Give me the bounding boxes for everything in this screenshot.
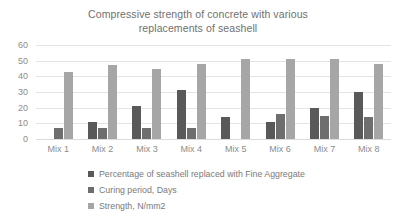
- bar[interactable]: [276, 114, 285, 139]
- bar-group: [214, 45, 258, 139]
- x-axis-tick-mix-3: Mix 3: [125, 141, 169, 157]
- bar-group: [302, 45, 346, 139]
- bar-group: [125, 45, 169, 139]
- y-axis-tick-60: 60: [18, 40, 28, 50]
- legend-label: Strength, N/mm2: [99, 201, 166, 211]
- chart-title-line-1: Compressive strength of concrete with va…: [40, 7, 356, 21]
- bar[interactable]: [330, 59, 339, 139]
- bar-group: [169, 45, 213, 139]
- y-axis-tick-20: 20: [18, 103, 28, 113]
- legend-swatch-icon: [88, 171, 94, 177]
- legend-label: Curing period, Days: [99, 185, 177, 195]
- bar[interactable]: [354, 92, 363, 139]
- legend-swatch-icon: [88, 187, 94, 193]
- x-axis-tick-mix-8: Mix 8: [347, 141, 391, 157]
- legend-label: Percentage of seashell replaced with Fin…: [99, 169, 305, 179]
- x-axis: Mix 1Mix 2Mix 3Mix 4Mix 5Mix 6Mix 7Mix 8: [36, 141, 391, 157]
- bar[interactable]: [221, 117, 230, 139]
- legend-swatch-icon: [88, 203, 94, 209]
- bar-group: [80, 45, 124, 139]
- chart-title-line-2: replacements of seashell: [40, 21, 356, 35]
- x-axis-tick-mix-1: Mix 1: [36, 141, 80, 157]
- legend-item[interactable]: Strength, N/mm2: [88, 198, 368, 214]
- bar[interactable]: [108, 65, 117, 139]
- bar[interactable]: [364, 117, 373, 139]
- gridline-0: [36, 139, 391, 140]
- y-axis-tick-40: 40: [18, 71, 28, 81]
- bar[interactable]: [132, 106, 141, 139]
- x-axis-tick-mix-7: Mix 7: [302, 141, 346, 157]
- bar[interactable]: [266, 122, 275, 139]
- x-axis-tick-mix-6: Mix 6: [258, 141, 302, 157]
- x-axis-tick-mix-4: Mix 4: [169, 141, 213, 157]
- bar[interactable]: [142, 128, 151, 139]
- bar-group: [258, 45, 302, 139]
- legend-item[interactable]: Curing period, Days: [88, 182, 368, 198]
- x-axis-tick-mix-5: Mix 5: [214, 141, 258, 157]
- bar[interactable]: [286, 59, 295, 139]
- bar-groups: [36, 45, 391, 139]
- y-axis-tick-10: 10: [18, 118, 28, 128]
- bar[interactable]: [241, 59, 250, 139]
- bar[interactable]: [320, 116, 329, 140]
- chart-legend: Percentage of seashell replaced with Fin…: [88, 166, 368, 214]
- y-axis-tick-50: 50: [18, 56, 28, 66]
- bar[interactable]: [88, 122, 97, 139]
- bar[interactable]: [197, 64, 206, 139]
- y-axis-tick-30: 30: [18, 87, 28, 97]
- bar[interactable]: [54, 128, 63, 139]
- bar[interactable]: [64, 72, 73, 139]
- y-axis: 6050403020100: [0, 45, 32, 139]
- bar[interactable]: [177, 90, 186, 139]
- bar[interactable]: [98, 128, 107, 139]
- bar-chart: Compressive strength of concrete with va…: [0, 0, 396, 224]
- bar[interactable]: [152, 69, 161, 140]
- chart-title: Compressive strength of concrete with va…: [40, 7, 356, 35]
- legend-item[interactable]: Percentage of seashell replaced with Fin…: [88, 166, 368, 182]
- bar[interactable]: [310, 108, 319, 139]
- bar-group: [347, 45, 391, 139]
- y-axis-tick-0: 0: [23, 134, 28, 144]
- bar-group: [36, 45, 80, 139]
- bar[interactable]: [374, 64, 383, 139]
- bar[interactable]: [187, 128, 196, 139]
- x-axis-tick-mix-2: Mix 2: [80, 141, 124, 157]
